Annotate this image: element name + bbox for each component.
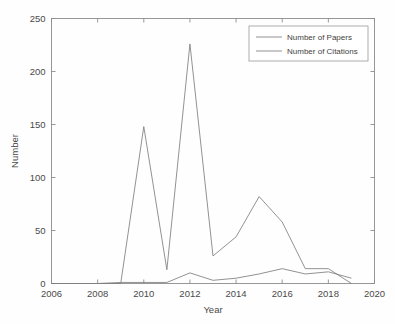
series-line-number-of-citations xyxy=(52,44,352,284)
chart-legend[interactable]: Number of PapersNumber of Citations xyxy=(249,26,368,61)
y-tick-label: 100 xyxy=(30,172,46,183)
x-axis-tick-labels: 20062008201020122014201620182020 xyxy=(41,288,385,299)
y-tick-label: 200 xyxy=(30,66,46,77)
y-axis-tick-labels: 050100150200250 xyxy=(30,13,46,289)
legend-label: Number of Citations xyxy=(287,47,358,56)
legend-label: Number of Papers xyxy=(287,33,352,42)
data-series-group xyxy=(52,44,352,284)
y-tick-label: 150 xyxy=(30,119,46,130)
x-tick-label: 2020 xyxy=(364,288,385,299)
x-tick-label: 2012 xyxy=(179,288,200,299)
line-chart: 20062008201020122014201620182020 0501001… xyxy=(0,0,395,324)
x-tick-label: 2008 xyxy=(87,288,108,299)
y-tick-label: 50 xyxy=(35,225,46,236)
figure-canvas: 20062008201020122014201620182020 0501001… xyxy=(0,0,395,324)
x-tick-label: 2014 xyxy=(226,288,247,299)
x-tick-label: 2010 xyxy=(133,288,154,299)
x-tick-label: 2006 xyxy=(41,288,62,299)
series-line-number-of-papers xyxy=(52,269,352,284)
y-tick-label: 0 xyxy=(40,278,45,289)
x-tick-label: 2018 xyxy=(318,288,339,299)
y-axis-title: Number xyxy=(9,134,20,168)
x-axis-title: Year xyxy=(203,304,222,315)
y-tick-label: 250 xyxy=(30,13,46,24)
x-tick-label: 2016 xyxy=(272,288,293,299)
